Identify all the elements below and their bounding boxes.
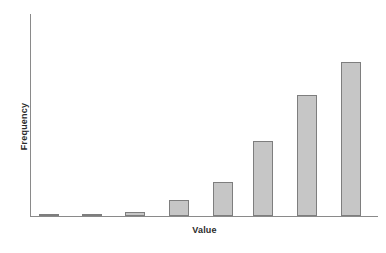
bar — [253, 141, 273, 216]
x-axis-line — [30, 216, 378, 217]
bars-layer — [31, 14, 378, 216]
bar — [169, 200, 189, 216]
x-axis-label: Value — [31, 225, 378, 235]
bar — [297, 95, 317, 216]
bar — [39, 214, 59, 216]
bar — [125, 212, 145, 216]
bar — [341, 62, 361, 216]
bar — [82, 214, 102, 216]
plot-area — [31, 14, 378, 216]
bar-chart-figure: Frequency Value — [0, 0, 386, 253]
bar — [213, 182, 233, 216]
